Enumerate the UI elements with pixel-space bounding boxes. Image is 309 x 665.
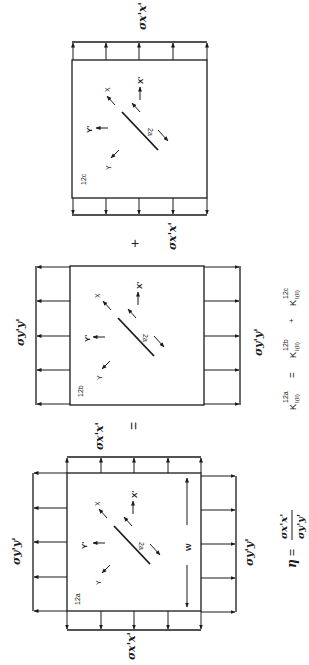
width-label: W [184,543,193,551]
stress-label-left-12a: σy'y' [10,537,23,565]
x-prime-label-12b: X' [135,282,144,289]
crack-length-arrow-upper [132,103,140,112]
crack-length-arrow-lower [158,130,168,141]
panel-label-12c: 12c [80,173,87,185]
x-label-12a: X [94,501,101,506]
superposition-equation: K 12a I(II) = K 12b I(II) + K 12c I(II) [282,287,300,410]
equation-plus: + [287,318,296,323]
stress-band-left-12b [36,266,70,405]
k-12b-symbol: K [288,352,298,358]
crack-label-12b: 2a [142,334,149,342]
eta-denominator: σy'y' [295,514,306,539]
k-12b-sup: 12b [282,339,289,351]
x-axis-arrow-12c [107,96,115,105]
y-prime-label-12a: Y' [80,542,89,549]
stress-label-right-12b: σy'y' [252,328,265,356]
plus-operator: + [131,235,139,251]
stress-label-right-12a: σy'y' [243,538,256,566]
stress-band-top-12c [72,42,207,60]
k-12b-sub: I(II) [294,342,300,351]
stress-band-top-12a [67,457,201,473]
stress-band-bottom-12a [67,611,201,630]
stress-label-bottom-12c: σx'x' [166,222,179,250]
equation-equals: = [287,372,298,378]
y-label-12c: Y [105,165,112,170]
y-axis-arrow-12b [102,361,110,369]
k-12a-sub: I(II) [294,394,300,403]
stress-label-bottom-12a: σx'x' [125,632,138,660]
stress-label-top-12a: σx'x' [93,422,106,450]
stress-band-bottom-12c [72,198,207,215]
stress-band-right-12a [201,476,236,612]
y-prime-label-12c: Y' [85,126,94,133]
k-12c-sub: I(II) [294,290,300,299]
crack-label-12a: 2a [138,542,145,550]
stress-band-right-12b [204,266,240,405]
panel-12a [33,457,236,630]
y-prime-label-12b: Y' [83,335,92,342]
k-12a-sup: 12a [282,391,289,403]
x-label-12b: X [94,293,101,298]
equals-operator: = [126,422,142,430]
y-axis-arrow-12a [102,565,110,573]
stress-label-top-12c: σx'x' [136,2,149,30]
k-12a-symbol: K [288,404,298,410]
x-label-12c: X [104,87,111,92]
panel-label-12a: 12a [74,593,81,605]
y-axis-arrow-12c [111,150,119,158]
biaxial-ratio-formula: η = σx'x' σy'y' [278,510,306,568]
x-prime-label-12c: X' [136,77,145,84]
x-prime-label-12a: X' [130,491,139,498]
eta-equals: = [285,549,299,556]
stress-superposition-diagram: 12c X X' Y' Y 2a σx'x' σx'x' + [0,0,309,665]
eta-numerator: σx'x' [278,514,289,539]
stress-label-left-12b: σy'y' [14,318,27,346]
y-label-12a: Y [95,580,102,585]
y-label-12b: Y [96,375,103,380]
k-12c-sup: 12c [282,287,289,299]
crack-label-12c: 2a [147,128,154,136]
stress-band-left-12a [33,473,67,611]
k-12c-symbol: K [288,300,298,306]
x-axis-arrow-12a [99,509,107,518]
x-axis-arrow-12b [103,301,111,310]
panel-label-12b: 12b [77,385,84,397]
eta-symbol: η [285,559,299,568]
